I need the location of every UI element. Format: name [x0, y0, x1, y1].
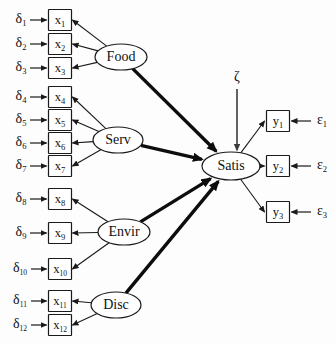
loading-path-serv-to-x7 — [73, 150, 102, 166]
loading-path-food-to-x1 — [73, 20, 107, 46]
loading-path-envir-to-x10 — [73, 243, 110, 269]
structural-path-food-to-satis — [133, 69, 217, 152]
loading-path-satis-to-y3 — [241, 179, 265, 212]
error-label-delta-9: δ9 — [16, 224, 27, 241]
error-label-delta-4: δ4 — [16, 88, 28, 105]
latent-label-serv: Serv — [105, 132, 131, 147]
diagram-canvas: ζ x1x2x3x4x5x6x7x8x9x10x11x12y1y2y3 Food… — [0, 0, 336, 344]
error-label-delta-10: δ10 — [13, 260, 27, 277]
loading-path-disc-to-x11 — [73, 301, 92, 303]
error-label-delta-1: δ1 — [16, 11, 27, 28]
latent-ellipse-layer: FoodServEnvirDiscSatis — [91, 44, 260, 318]
structural-path-layer — [126, 69, 218, 294]
error-label-delta-11: δ11 — [13, 292, 27, 309]
error-label-delta-6: δ6 — [16, 134, 27, 151]
structural-path-envir-to-satis — [140, 179, 210, 222]
error-label-epsilon-1: ε1 — [317, 112, 327, 129]
error-label-epsilon-2: ε2 — [317, 157, 327, 174]
error-label-delta-5: δ5 — [16, 111, 27, 128]
sem-path-diagram: ζ x1x2x3x4x5x6x7x8x9x10x11x12y1y2y3 Food… — [0, 0, 336, 344]
loading-path-disc-to-x12 — [73, 314, 98, 325]
loading-path-serv-to-x5 — [73, 120, 99, 132]
error-label-delta-3: δ3 — [16, 59, 27, 76]
loading-path-food-to-x2 — [73, 44, 99, 51]
error-label-delta-12: δ12 — [13, 316, 27, 333]
endogenous-label-satis: Satis — [217, 158, 244, 173]
error-label-delta-8: δ8 — [16, 190, 27, 207]
latent-label-envir: Envir — [108, 224, 139, 239]
loading-path-envir-to-x8 — [73, 199, 109, 222]
loading-path-serv-to-x6 — [73, 142, 94, 143]
loading-path-food-to-x3 — [73, 62, 98, 68]
loading-path-serv-to-x4 — [73, 97, 106, 129]
error-label-delta-7: δ7 — [16, 157, 27, 174]
error-label-delta-2: δ2 — [16, 35, 27, 52]
latent-label-disc: Disc — [103, 297, 129, 312]
structural-path-serv-to-satis — [141, 145, 202, 159]
loading-path-envir-to-x9 — [73, 233, 99, 234]
disturbance-layer: ζ — [234, 69, 240, 150]
disturbance-label-zeta: ζ — [234, 69, 240, 84]
error-label-epsilon-3: ε3 — [317, 203, 327, 220]
loading-path-satis-to-y1 — [241, 121, 265, 153]
latent-label-food: Food — [107, 49, 136, 64]
